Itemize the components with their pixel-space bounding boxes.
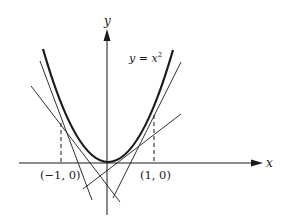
curve-label-exp: 2	[158, 51, 162, 59]
y-axis-label: y	[103, 14, 111, 28]
parabola-diagram: y x y = x2 (−1, 0) (1, 0)	[0, 0, 286, 223]
point-label-minus-one: (−1, 0)	[40, 168, 81, 182]
curve-label: y = x2	[128, 51, 162, 65]
point-label-plus-one: (1, 0)	[140, 168, 171, 182]
x-axis-label: x	[266, 156, 273, 170]
curve-label-eq: =	[135, 52, 151, 65]
y-axis-arrow-icon	[104, 29, 111, 41]
x-axis-arrow-icon	[251, 160, 263, 167]
